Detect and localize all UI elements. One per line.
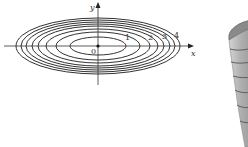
level-label-4: 4 (174, 31, 179, 40)
y-axis-arrow-icon (96, 2, 101, 8)
level-label-1: 1 (125, 33, 130, 42)
level-label-3: 3 (162, 32, 167, 41)
x-axis-label: x (191, 49, 196, 58)
surface-body (229, 20, 248, 147)
figure: y x 0 1 2 3 4 (0, 0, 248, 147)
origin-dot (96, 44, 99, 47)
y-axis-label: y (89, 3, 95, 12)
origin-label: 0 (91, 47, 96, 56)
figure-canvas: y x 0 1 2 3 4 (0, 0, 248, 147)
surface-plot (229, 20, 248, 147)
contour-plot: y x 0 1 2 3 4 (4, 2, 196, 85)
level-label-2: 2 (148, 33, 153, 42)
x-axis-arrow-icon (188, 44, 194, 49)
